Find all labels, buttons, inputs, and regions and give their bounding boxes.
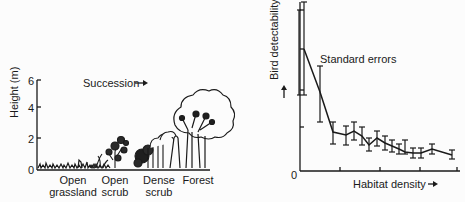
detectability-chart: [0, 0, 465, 202]
origin-label: 0: [291, 169, 297, 181]
standard-errors-annotation: Standard errors: [320, 53, 396, 65]
y-axis-label: Bird detectability: [268, 0, 280, 80]
y-arrow-up-icon: [281, 85, 287, 98]
x-arrow-right-icon: [428, 181, 438, 187]
x-axis-label: Habitat density: [353, 178, 426, 190]
error-bars: [301, 2, 455, 159]
